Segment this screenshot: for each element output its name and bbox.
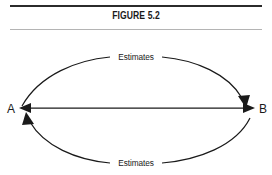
- edge-label-top: Estimates: [118, 52, 153, 62]
- arrowhead-middle-to-a: [19, 103, 31, 113]
- edge-bottom-arc: [22, 112, 250, 163]
- edge-middle-line: [19, 103, 255, 113]
- estimates-diagram: Estimates Estimates A B: [0, 36, 272, 175]
- figure-title: FIGURE 5.2: [19, 10, 253, 21]
- figure-page: FIGURE 5.2 Estimates: [0, 0, 272, 175]
- arrowhead-middle-to-b: [243, 103, 255, 113]
- header-rule-top: [10, 5, 262, 7]
- edge-top-arc: [22, 57, 250, 108]
- edge-label-bottom: Estimates: [118, 158, 153, 168]
- node-label-b: B: [259, 102, 267, 116]
- header-rule-bottom: [10, 29, 262, 30]
- node-label-a: A: [7, 102, 15, 116]
- arrowhead-bottom-to-a: [22, 112, 34, 125]
